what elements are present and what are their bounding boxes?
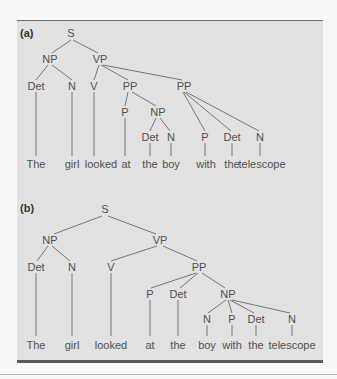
node-p: P bbox=[121, 106, 128, 118]
node-v: V bbox=[107, 261, 115, 273]
node-det: Det bbox=[27, 261, 44, 273]
word: telescope bbox=[268, 339, 315, 351]
word: telescope bbox=[238, 158, 285, 170]
word: the bbox=[142, 158, 157, 170]
node-det: Det bbox=[247, 313, 264, 325]
node-n: N bbox=[256, 131, 264, 143]
word: the bbox=[170, 339, 185, 351]
word: the bbox=[248, 339, 263, 351]
node-pp: PP bbox=[123, 80, 138, 92]
node-n: N bbox=[167, 131, 175, 143]
word: at bbox=[121, 158, 130, 170]
panel-label-a: (a) bbox=[20, 27, 34, 39]
node-det: Det bbox=[141, 131, 158, 143]
node-s: S bbox=[101, 203, 108, 215]
word: with bbox=[195, 158, 216, 170]
node-det: Det bbox=[169, 288, 186, 300]
node-v: V bbox=[90, 80, 98, 92]
node-n: N bbox=[288, 313, 296, 325]
parse-tree-a: (a) S NP VP Det N V PP PP P bbox=[20, 27, 286, 170]
word: The bbox=[27, 339, 46, 351]
parse-tree-b: (b) S NP VP Det N V PP P Det NP bbox=[20, 202, 316, 351]
node-pp: PP bbox=[192, 261, 207, 273]
node-np: NP bbox=[150, 106, 165, 118]
word: looked bbox=[85, 158, 117, 170]
word: with bbox=[221, 339, 242, 351]
word: boy bbox=[198, 339, 216, 351]
node-n: N bbox=[68, 261, 76, 273]
node-vp: VP bbox=[93, 53, 108, 65]
node-np: NP bbox=[42, 53, 57, 65]
node-p: P bbox=[146, 288, 153, 300]
word: the bbox=[224, 158, 239, 170]
node-np: NP bbox=[42, 234, 57, 246]
node-np: NP bbox=[220, 288, 235, 300]
word: looked bbox=[95, 339, 127, 351]
node-p: P bbox=[201, 131, 208, 143]
word: boy bbox=[162, 158, 180, 170]
node-s: S bbox=[67, 27, 74, 39]
node-n: N bbox=[68, 80, 76, 92]
node-pp: PP bbox=[177, 80, 192, 92]
word: The bbox=[27, 158, 46, 170]
node-p: P bbox=[228, 313, 235, 325]
node-det: Det bbox=[27, 80, 44, 92]
node-vp: VP bbox=[153, 234, 168, 246]
word: at bbox=[145, 339, 154, 351]
word: girl bbox=[65, 158, 80, 170]
node-n: N bbox=[203, 313, 211, 325]
panel-label-b: (b) bbox=[20, 202, 34, 214]
node-det: Det bbox=[223, 131, 240, 143]
word: girl bbox=[65, 339, 80, 351]
parse-trees-diagram: (a) S NP VP Det N V PP PP P bbox=[0, 0, 337, 379]
